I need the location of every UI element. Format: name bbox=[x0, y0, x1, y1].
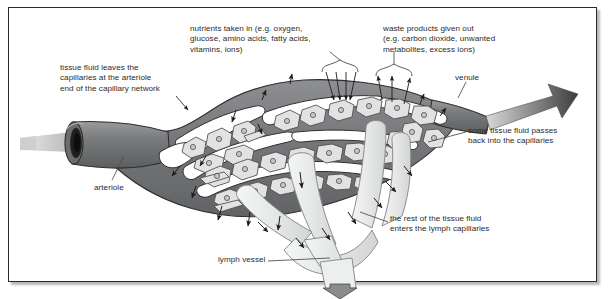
arteriole-vessel bbox=[65, 121, 170, 168]
label-some-tissue-fluid-returns: some tissue fluid passes back into the c… bbox=[468, 126, 603, 147]
label-arteriole: arteriole bbox=[94, 183, 124, 193]
venule-outflow-arrow bbox=[486, 84, 578, 130]
nutrient-brace bbox=[322, 60, 358, 72]
arteriole-inflow-arrow bbox=[20, 132, 72, 152]
label-lymph-vessel: lymph vessel bbox=[218, 255, 265, 265]
label-tissue-fluid-leaves: tissue fluid leaves the capillaries at t… bbox=[60, 63, 200, 94]
waste-brace bbox=[376, 64, 412, 76]
label-rest-enters-lymph: the rest of the tissue fluid enters the … bbox=[390, 214, 540, 235]
figure-root: tissue fluid leaves the capillaries at t… bbox=[0, 0, 609, 299]
label-waste-products: waste products given out (e.g. carbon di… bbox=[383, 24, 558, 55]
label-nutrients-taken-in: nutrients taken in (e.g. oxygen, glucose… bbox=[190, 24, 375, 55]
label-venule: venule bbox=[455, 73, 479, 83]
